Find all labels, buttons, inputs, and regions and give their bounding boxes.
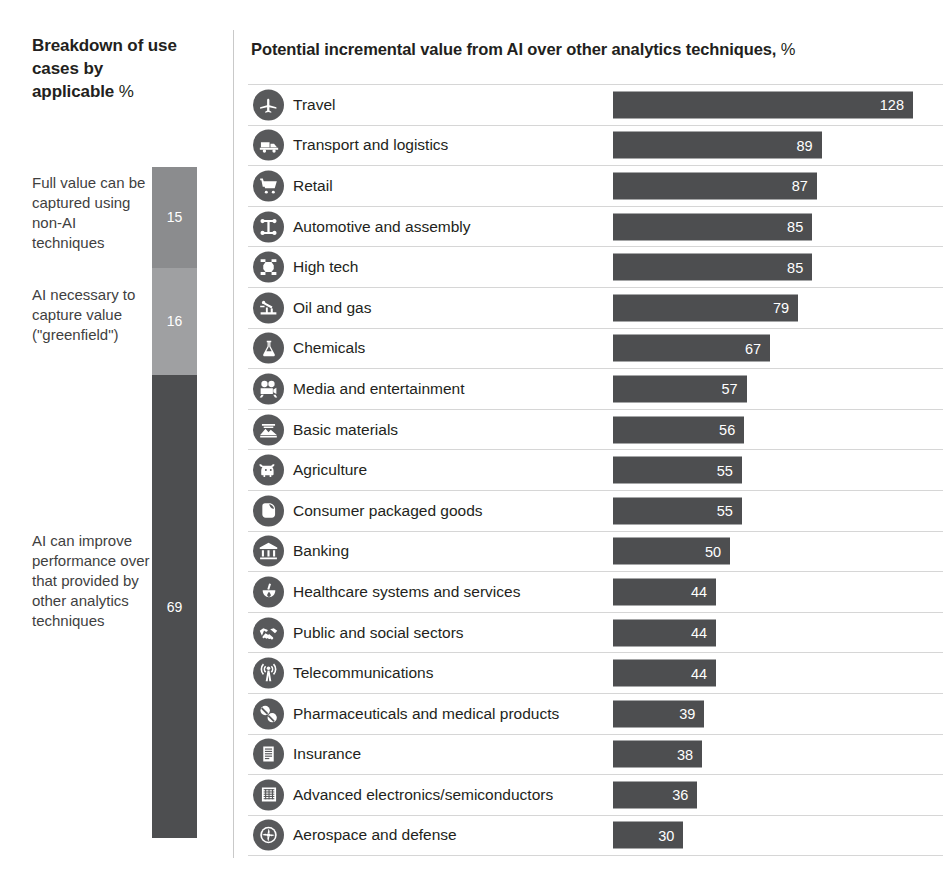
flask-icon (253, 333, 284, 364)
chart-row-label: Basic materials (293, 421, 398, 439)
chart-row-label: Oil and gas (293, 299, 371, 317)
chart-row-label: Media and entertainment (293, 380, 464, 398)
chart-row-value: 30 (658, 827, 683, 843)
chart-row-value: 50 (705, 543, 730, 559)
chart-row-bar-area: 39 (613, 700, 943, 727)
chart-row-label: Transport and logistics (293, 136, 448, 154)
antenna-tower-icon (253, 658, 284, 689)
chart-row-bar-area: 44 (613, 660, 943, 687)
chart-row-bar: 55 (613, 457, 742, 484)
legend-label-non-ai: Full value can be captured using non-AI … (32, 173, 150, 253)
legend-label-greenfield: AI necessary to capture value ("greenfie… (32, 285, 150, 345)
chart-row-value: 44 (691, 665, 716, 681)
chart-row-bar: 85 (613, 213, 812, 240)
circuit-board-icon (253, 779, 284, 810)
chart-row-value: 87 (792, 178, 817, 194)
package-icon (253, 495, 284, 526)
ore-pile-icon (253, 414, 284, 445)
chart-row-value: 85 (787, 219, 812, 235)
airplane-icon (253, 89, 284, 120)
chart-row-label: High tech (293, 258, 358, 276)
chart-row: Automotive and assembly85 (248, 206, 943, 247)
breakdown-title-main: Breakdown of use cases by applicable (32, 36, 177, 101)
chart-row-bar-area: 56 (613, 416, 943, 443)
chart-row: Telecommunications44 (248, 652, 943, 693)
shopping-cart-icon (253, 170, 284, 201)
chart-row-bar: 38 (613, 741, 702, 768)
chart-row-bar: 39 (613, 700, 704, 727)
chart-title-unit: % (781, 40, 796, 58)
chart-row-bar: 87 (613, 172, 817, 199)
chart-row: Chemicals67 (248, 328, 943, 369)
chart-row-bar: 89 (613, 132, 822, 159)
legend-label-ai-improve: AI can improve performance over that pro… (32, 531, 150, 631)
microchip-icon (253, 252, 284, 283)
chart-row-bar-area: 85 (613, 254, 943, 281)
stacked-segment-value: 15 (167, 209, 183, 225)
chart-row-bar-area: 38 (613, 741, 943, 768)
chart-row-bar: 30 (613, 822, 683, 849)
chart-title-main: Potential incremental value from AI over… (251, 40, 776, 58)
chart-row: Aerospace and defense30 (248, 815, 943, 857)
stacked-segment-value: 16 (167, 313, 183, 329)
chart-row-bar: 56 (613, 416, 744, 443)
chart-row-bar-area: 36 (613, 781, 943, 808)
oil-pump-icon (253, 292, 284, 323)
chart-row-bar-area: 87 (613, 172, 943, 199)
chart-row-bar: 44 (613, 578, 716, 605)
chart-row-value: 79 (773, 300, 798, 316)
car-chassis-icon (253, 211, 284, 242)
chart-row: Pharmaceuticals and medical products39 (248, 693, 943, 734)
chart-row: Media and entertainment57 (248, 368, 943, 409)
chart-row-label: Retail (293, 177, 333, 195)
chart-row-bar: 128 (613, 91, 913, 118)
chart-row-label: Travel (293, 96, 336, 114)
chart-row-value: 85 (787, 259, 812, 275)
chart-row-label: Banking (293, 542, 349, 560)
chart-row-label: Chemicals (293, 339, 365, 357)
chart-row: Retail87 (248, 165, 943, 206)
chart-row: Transport and logistics89 (248, 125, 943, 166)
chart-row: Travel128 (248, 84, 943, 125)
chart-row: High tech85 (248, 246, 943, 287)
truck-icon (253, 130, 284, 161)
chart-row-bar-area: 89 (613, 132, 943, 159)
chart-row-label: Telecommunications (293, 664, 433, 682)
stacked-segment-value: 69 (167, 599, 183, 615)
chart-row-bar: 67 (613, 335, 770, 362)
chart-row-bar-area: 79 (613, 294, 943, 321)
chart-row-label: Agriculture (293, 461, 367, 479)
chart-row-bar-area: 67 (613, 335, 943, 362)
chart-row-bar-area: 55 (613, 457, 943, 484)
chart-row-bar-area: 55 (613, 497, 943, 524)
chart-title: Potential incremental value from AI over… (251, 40, 795, 59)
stacked-segment-ai-improve: 69 (152, 375, 197, 838)
chart-row-bar: 85 (613, 254, 812, 281)
column-divider (233, 30, 234, 858)
breakdown-panel: Breakdown of use cases by applicable % F… (0, 0, 233, 885)
jet-engine-icon (253, 820, 284, 851)
chart-row-value: 38 (677, 746, 702, 762)
chart-row-label: Pharmaceuticals and medical products (293, 705, 559, 723)
chart-row-bar: 44 (613, 619, 716, 646)
chart-row-label: Automotive and assembly (293, 218, 470, 236)
breakdown-title: Breakdown of use cases by applicable % (32, 34, 182, 103)
chart-row: Basic materials56 (248, 409, 943, 450)
chart-row-bar: 79 (613, 294, 798, 321)
chart-row-value: 44 (691, 625, 716, 641)
chart-row-bar: 50 (613, 538, 730, 565)
chart-row-value: 89 (796, 137, 821, 153)
chart-row-bar-area: 128 (613, 91, 943, 118)
chart-row-label: Insurance (293, 745, 361, 763)
chart-row-value: 44 (691, 584, 716, 600)
chart-row-value: 39 (679, 706, 704, 722)
stacked-segment-greenfield: 16 (152, 268, 197, 375)
chart-row-value: 55 (717, 503, 742, 519)
chart-row-bar: 55 (613, 497, 742, 524)
cow-icon (253, 455, 284, 486)
chart-row-bar-area: 44 (613, 619, 943, 646)
chart-row-value: 128 (880, 97, 913, 113)
pills-icon (253, 698, 284, 729)
chart-row: Insurance38 (248, 734, 943, 775)
mortar-pestle-icon (253, 576, 284, 607)
